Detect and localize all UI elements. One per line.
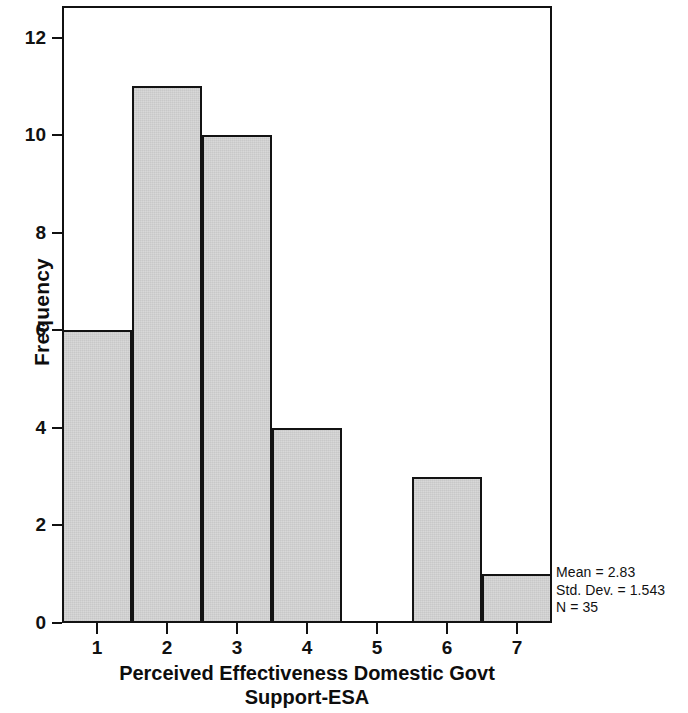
x-tick-6: [446, 623, 448, 634]
bar-2: [132, 86, 202, 623]
x-tick-2: [166, 623, 168, 634]
x-tick-4: [306, 623, 308, 634]
x-tick-label-5: 5: [372, 638, 383, 657]
x-tick-5: [376, 623, 378, 634]
bar-6: [412, 477, 482, 623]
histogram-chart: Frequency 024681012 1234567 Perceived Ef…: [0, 0, 688, 713]
x-tick-label-2: 2: [162, 638, 173, 657]
y-tick-12: [52, 37, 62, 39]
y-tick-10: [52, 134, 62, 136]
bar-4: [272, 428, 342, 623]
x-tick-label-1: 1: [92, 638, 103, 657]
stats-annotation: Mean = 2.83 Std. Dev. = 1.543 N = 35: [556, 564, 665, 617]
y-tick-4: [52, 427, 62, 429]
y-tick-0: [52, 622, 62, 624]
x-tick-label-6: 6: [442, 638, 453, 657]
y-tick-8: [52, 232, 62, 234]
y-axis-title: Frequency: [30, 232, 54, 392]
x-axis-title-line1: Perceived Effectiveness Domestic Govt: [119, 662, 495, 684]
y-tick-label-0: 0: [10, 613, 46, 632]
y-tick-label-12: 12: [10, 28, 46, 47]
bars-layer: [62, 6, 552, 623]
y-tick-label-2: 2: [10, 515, 46, 534]
y-tick-label-8: 8: [10, 223, 46, 242]
bar-3: [202, 135, 272, 623]
x-tick-7: [516, 623, 518, 634]
y-tick-6: [52, 329, 62, 331]
x-axis-title: Perceived Effectiveness Domestic Govt Su…: [62, 661, 552, 710]
y-tick-label-4: 4: [10, 418, 46, 437]
x-tick-label-3: 3: [232, 638, 243, 657]
x-tick-1: [96, 623, 98, 634]
y-tick-label-10: 10: [10, 125, 46, 144]
bar-7: [482, 574, 552, 623]
x-tick-label-7: 7: [512, 638, 523, 657]
x-tick-label-4: 4: [302, 638, 313, 657]
x-tick-3: [236, 623, 238, 634]
stat-n: N = 35: [556, 599, 665, 617]
stat-mean: Mean = 2.83: [556, 564, 665, 582]
bar-1: [62, 330, 132, 623]
stat-std-dev: Std. Dev. = 1.543: [556, 582, 665, 600]
y-tick-label-6: 6: [10, 320, 46, 339]
x-axis-title-line2: Support-ESA: [62, 685, 552, 709]
y-tick-2: [52, 524, 62, 526]
